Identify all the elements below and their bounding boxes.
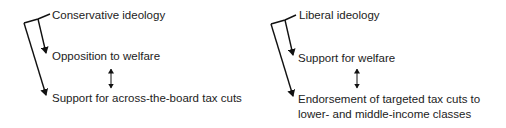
targeted-tax-cuts-label-line2: lower- and middle-income classes	[298, 107, 471, 121]
across-the-board-tax-cuts-label: Support for across-the-board tax cuts	[52, 91, 242, 105]
targeted-tax-cuts-label-line1: Endorsement of targeted tax cuts to	[298, 92, 480, 106]
liberal-ideology-label: Liberal ideology	[299, 8, 380, 22]
opposition-to-welfare-label: Opposition to welfare	[52, 49, 160, 63]
support-for-welfare-label: Support for welfare	[298, 51, 395, 65]
conservative-ideology-label: Conservative ideology	[52, 8, 165, 22]
